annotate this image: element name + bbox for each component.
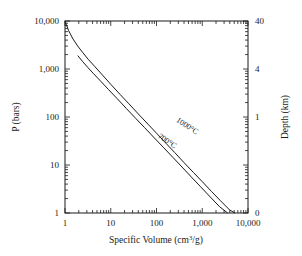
- y-tick-label: 100: [46, 112, 60, 122]
- x-axis-tick-labels: 1101001,00010,000: [63, 218, 261, 228]
- y-tick-label: 1: [55, 208, 60, 218]
- depth-axis-tick-labels: 01440: [255, 16, 265, 218]
- depth-axis-ticks: [243, 21, 248, 213]
- x-tick-label: 10,000: [236, 218, 261, 228]
- curve-700c: [78, 56, 228, 213]
- x-tick-label: 10: [106, 218, 116, 228]
- x-tick-label: 1: [63, 218, 68, 228]
- curve-label: 1000°C: [175, 115, 200, 136]
- plot-frame: [65, 21, 248, 213]
- y-tick-label: 1,000: [39, 64, 60, 74]
- y-axis-ticks: [65, 21, 70, 213]
- curve-1000c: [65, 21, 235, 213]
- chart-svg: 1101001,00010,000 1101001,00010,000 0144…: [0, 0, 302, 256]
- x-tick-label: 1,000: [192, 218, 213, 228]
- y-tick-label: 10,000: [34, 16, 59, 26]
- depth-tick-label: 4: [255, 64, 260, 74]
- x-axis-ticks: [65, 21, 248, 213]
- y-axis-tick-labels: 1101001,00010,000: [34, 16, 59, 218]
- depth-axis-title: Depth (km): [280, 95, 291, 139]
- x-axis-title: Specific Volume (cm3/g): [109, 234, 203, 247]
- depth-tick-label: 0: [255, 208, 260, 218]
- curve-label: 700°C: [156, 132, 178, 151]
- curve-series-group: [65, 21, 235, 213]
- y-tick-label: 10: [50, 160, 60, 170]
- figure: 1101001,00010,000 1101001,00010,000 0144…: [0, 0, 302, 256]
- depth-tick-label: 40: [255, 16, 265, 26]
- depth-tick-label: 1: [255, 112, 260, 122]
- y-axis-title: P (bars): [11, 102, 22, 131]
- curve-labels-group: 1000°C700°C: [156, 115, 200, 150]
- x-tick-label: 100: [150, 218, 164, 228]
